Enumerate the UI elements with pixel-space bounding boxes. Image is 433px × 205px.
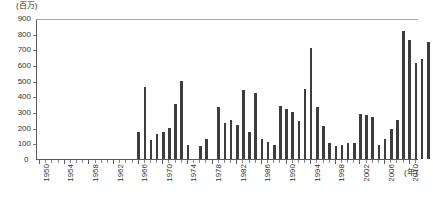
plot-area [36, 19, 418, 160]
x-tick-mark [249, 160, 250, 163]
y-tick-label: 700 [18, 46, 31, 54]
x-tick-mark [168, 160, 169, 163]
y-tick-label: 400 [18, 93, 31, 101]
bar [144, 87, 147, 159]
bar [353, 143, 356, 159]
bar [335, 146, 338, 159]
x-tick-mark [193, 160, 194, 163]
x-tick-label: 2002 [363, 164, 371, 182]
x-tick-mark [107, 160, 108, 163]
x-tick-mark [45, 160, 46, 163]
bar [285, 109, 288, 159]
x-tick-mark [316, 160, 317, 163]
bar [427, 42, 430, 160]
bar [378, 145, 381, 159]
x-tick-mark [230, 160, 231, 163]
x-tick-mark [396, 160, 397, 163]
x-tick-mark [372, 160, 373, 163]
bar [390, 129, 393, 159]
x-tick-label: 2006 [388, 164, 396, 182]
y-tick-label: 900 [18, 15, 31, 23]
y-tick-label: 500 [18, 78, 31, 86]
x-tick-mark [76, 160, 77, 163]
bar [162, 132, 165, 159]
bar [365, 115, 368, 159]
bar [316, 107, 319, 159]
x-tick-mark [403, 160, 404, 163]
x-tick-mark [205, 160, 206, 163]
x-tick-label: 1986 [264, 164, 272, 182]
bar [415, 63, 418, 159]
x-tick-label: 1950 [43, 164, 51, 182]
bar [187, 145, 190, 159]
x-axis-unit-label: (年) [404, 168, 417, 177]
bar [248, 132, 251, 159]
bar [310, 48, 313, 159]
x-tick-mark [273, 160, 274, 163]
bar [205, 139, 208, 159]
x-tick-label: 1954 [67, 164, 75, 182]
bar [347, 143, 350, 159]
x-tick-label: 1978 [215, 164, 223, 182]
bar [396, 120, 399, 159]
bar [156, 134, 159, 159]
x-tick-mark [51, 160, 52, 163]
x-tick-mark [242, 160, 243, 163]
bar [421, 59, 424, 159]
y-tick-label: 800 [18, 31, 31, 39]
bar [408, 40, 411, 159]
x-tick-label: 1990 [289, 164, 297, 182]
x-tick-mark [132, 160, 133, 163]
x-tick-label: 1958 [92, 164, 100, 182]
bar [174, 104, 177, 159]
bar [261, 139, 264, 159]
x-tick-mark [353, 160, 354, 163]
bar [291, 112, 294, 159]
bar-series [37, 20, 418, 159]
x-tick-mark [255, 160, 256, 163]
x-tick-mark [390, 160, 391, 163]
x-tick-mark [218, 160, 219, 163]
x-tick-mark [156, 160, 157, 163]
x-tick-mark [347, 160, 348, 163]
x-tick-mark [58, 160, 59, 163]
bar [341, 145, 344, 159]
bar [217, 107, 220, 159]
bar [371, 117, 374, 159]
bar [328, 143, 331, 159]
bar [384, 139, 387, 159]
bar [199, 146, 202, 159]
x-tick-mark [366, 160, 367, 163]
bar [242, 90, 245, 159]
x-tick-mark [175, 160, 176, 163]
x-tick-mark [82, 160, 83, 163]
x-axis-labels: 1950195419581962196619701974197819821986… [36, 164, 418, 205]
x-tick-mark [150, 160, 151, 163]
x-tick-label: 1962 [117, 164, 125, 182]
y-tick-label: 100 [18, 140, 31, 148]
x-tick-mark [70, 160, 71, 163]
y-tick-label: 600 [18, 62, 31, 70]
x-tick-mark [125, 160, 126, 163]
x-tick-label: 1998 [338, 164, 346, 182]
x-tick-label: 1970 [166, 164, 174, 182]
x-tick-label: 1966 [141, 164, 149, 182]
bar [254, 93, 257, 159]
bar [267, 142, 270, 159]
bar [236, 125, 239, 159]
bar [224, 123, 227, 159]
x-tick-label: 1982 [240, 164, 248, 182]
bar [150, 140, 153, 159]
x-tick-mark [144, 160, 145, 163]
x-tick-mark [298, 160, 299, 163]
x-tick-mark [181, 160, 182, 163]
bar [180, 81, 183, 159]
bar [359, 114, 362, 159]
x-tick-label: 1974 [190, 164, 198, 182]
y-tick-label: 300 [18, 109, 31, 117]
x-tick-mark [304, 160, 305, 163]
x-tick-mark [119, 160, 120, 163]
x-tick-mark [224, 160, 225, 163]
bar [322, 126, 325, 159]
x-tick-mark [323, 160, 324, 163]
